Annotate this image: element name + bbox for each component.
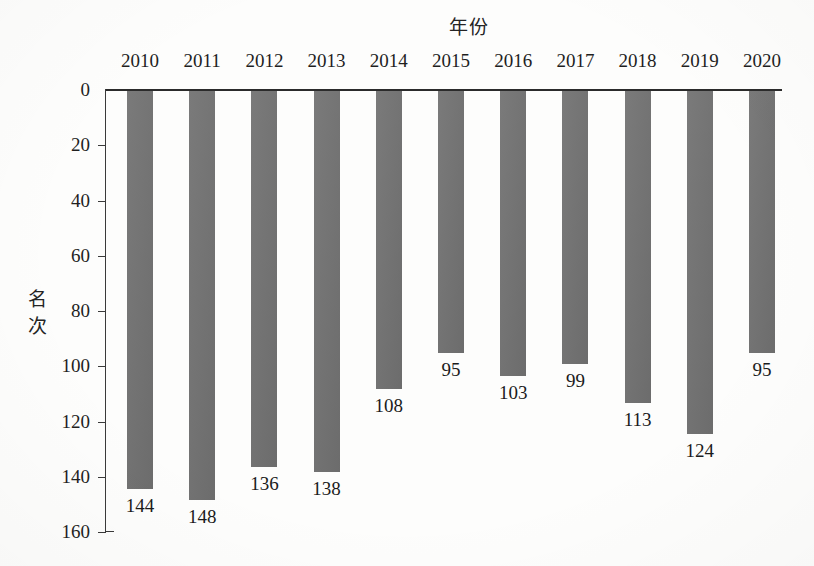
x-axis-label-2011: 2011 [171,50,233,72]
bar-2017[interactable] [562,91,588,364]
x-axis-label-2018: 2018 [607,50,669,72]
bar-2014[interactable] [376,91,402,389]
y-axis-tick-label: 100 [32,355,90,377]
bar-2020[interactable] [749,91,775,353]
x-axis-label-2020: 2020 [731,50,793,72]
bar-2010[interactable] [127,91,153,489]
y-axis-tick-label: 60 [32,245,90,267]
chart-page: 年份 名 次 020406080100120140160 20102011201… [0,0,814,566]
bar-value-label-2015: 95 [420,359,482,381]
bar-2013[interactable] [314,91,340,472]
bar-value-label-2019: 124 [669,440,731,462]
y-axis-tick [98,366,105,367]
bar-2018[interactable] [625,91,651,403]
bar-value-label-2011: 148 [171,506,233,528]
bar-value-label-2013: 138 [296,478,358,500]
x-axis-label-2014: 2014 [358,50,420,72]
bar-value-label-2018: 113 [607,409,669,431]
bar-2016[interactable] [500,91,526,376]
y-axis-line [105,89,106,533]
y-axis-tick-label: 120 [32,411,90,433]
bar-2015[interactable] [438,91,464,353]
chart-title: 年份 [0,12,814,39]
x-axis-label-2015: 2015 [420,50,482,72]
x-axis-label-2013: 2013 [296,50,358,72]
bar-value-label-2020: 95 [731,359,793,381]
x-axis-label-2017: 2017 [544,50,606,72]
y-axis-tick-label: 140 [32,466,90,488]
y-axis-tick-label: 160 [32,521,90,543]
chart-title-text: 年份 [449,17,489,38]
y-axis-tick [98,201,105,202]
bar-2011[interactable] [189,91,215,500]
y-axis-tick-label: 80 [32,300,90,322]
y-axis-tick-label: 40 [32,190,90,212]
x-axis-label-2010: 2010 [109,50,171,72]
x-axis-label-2016: 2016 [482,50,544,72]
bar-value-label-2014: 108 [358,395,420,417]
bar-value-label-2016: 103 [482,382,544,404]
y-axis-tick [98,532,105,533]
y-axis-tick-label: 0 [32,79,90,101]
y-axis-bottom-cap [105,531,114,532]
y-axis-tick [98,422,105,423]
bar-2012[interactable] [251,91,277,467]
x-axis-label-2012: 2012 [233,50,295,72]
y-axis-tick-label: 20 [32,134,90,156]
y-axis-tick [98,311,105,312]
bar-value-label-2012: 136 [233,473,295,495]
bar-value-label-2010: 144 [109,495,171,517]
bar-2019[interactable] [687,91,713,434]
y-axis-tick [98,145,105,146]
y-axis-tick [98,256,105,257]
y-axis-tick [98,477,105,478]
bar-value-label-2017: 99 [544,370,606,392]
x-axis-label-2019: 2019 [669,50,731,72]
